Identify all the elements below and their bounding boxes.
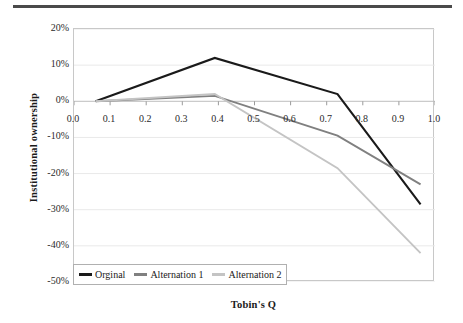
- x-axis-title: Tobin's Q: [73, 299, 434, 310]
- legend-line-swatch-icon: [79, 273, 92, 276]
- series-lines-group: [96, 58, 421, 253]
- y-axis-tick-label: -10%: [17, 131, 69, 141]
- plot-svg: [74, 29, 435, 282]
- legend-line-swatch-icon: [134, 273, 147, 276]
- series-line-orginal: [96, 58, 421, 204]
- x-axis-tick-labels: 0.00.10.20.30.40.50.60.70.80.91.0: [73, 114, 434, 128]
- y-axis-tick-label: 10%: [17, 59, 69, 69]
- y-axis-tick-label: -20%: [17, 168, 69, 178]
- chart-legend: OrginalAlternation 1Alternation 2: [73, 264, 287, 285]
- legend-label: Alternation 1: [150, 270, 203, 280]
- y-axis-tick-label: -30%: [17, 204, 69, 214]
- chart-figure: Institutional ownership Tobin's Q 20%10%…: [0, 0, 463, 323]
- x-axis-tick-label: 0.6: [275, 114, 305, 124]
- x-axis-tick-label: 0.3: [166, 114, 196, 124]
- y-axis-tick-label: -40%: [17, 240, 69, 250]
- legend-entry: Alternation 1: [134, 270, 203, 280]
- x-axis-tick-label: 0.1: [94, 114, 124, 124]
- x-axis-tick-label: 0.0: [58, 114, 88, 124]
- y-axis-tick-label: 0%: [17, 95, 69, 105]
- legend-line-swatch-icon: [212, 273, 225, 276]
- y-axis-tick-labels: 20%10%0%-10%-20%-30%-40%-50%: [14, 0, 69, 323]
- legend-entry: Orginal: [79, 270, 125, 280]
- legend-label: Alternation 2: [228, 270, 281, 280]
- tickmarks-group: [74, 101, 435, 105]
- plot-area: [73, 28, 434, 281]
- x-axis-tick-label: 0.9: [383, 114, 413, 124]
- legend-label: Orginal: [95, 270, 125, 280]
- y-axis-tick-label: -50%: [17, 276, 69, 286]
- x-axis-tick-label: 0.2: [130, 114, 160, 124]
- x-axis-tick-label: 1.0: [419, 114, 449, 124]
- y-axis-tick-label: 20%: [17, 23, 69, 33]
- gridlines-group: [74, 29, 435, 282]
- x-axis-tick-label: 0.7: [311, 114, 341, 124]
- x-axis-tick-label: 0.4: [202, 114, 232, 124]
- legend-entry: Alternation 2: [212, 270, 281, 280]
- x-axis-tick-label: 0.5: [239, 114, 269, 124]
- x-axis-tick-label: 0.8: [347, 114, 377, 124]
